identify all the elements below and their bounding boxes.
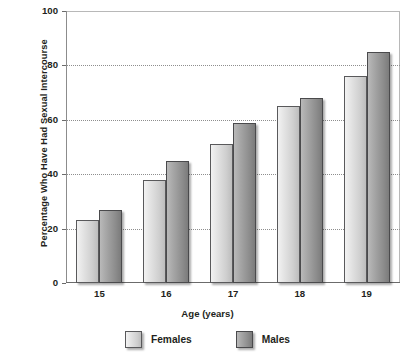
y-tick-label: 0 — [18, 277, 58, 288]
legend-label: Females — [151, 334, 192, 345]
y-tick-label: 100 — [18, 5, 58, 16]
y-tick-label: 80 — [18, 59, 58, 70]
y-tick-label: 40 — [18, 168, 58, 179]
legend-entry-females: Females — [125, 331, 192, 348]
gridline — [66, 65, 400, 66]
bar-females-19 — [344, 76, 367, 283]
bar-males-16 — [166, 161, 189, 283]
y-tick-label: 60 — [18, 114, 58, 125]
bar-males-19 — [367, 52, 390, 283]
bar-chart: Percentage Who Have Had Sexual Intercour… — [0, 0, 415, 363]
bar-males-17 — [233, 123, 256, 283]
legend-entry-males: Males — [236, 331, 290, 348]
bar-males-18 — [300, 98, 323, 283]
males-swatch — [236, 331, 253, 348]
y-tick-mark — [62, 283, 66, 284]
y-axis-line — [66, 11, 67, 283]
x-axis-title: Age (years) — [0, 308, 415, 319]
chart-legend: FemalesMales — [0, 331, 415, 348]
plot-border-top — [66, 11, 400, 12]
x-tick-label-16: 16 — [136, 288, 196, 299]
plot-area — [66, 11, 400, 283]
plot-border-right — [399, 11, 400, 283]
x-tick-label-18: 18 — [270, 288, 330, 299]
legend-label: Males — [262, 334, 290, 345]
bar-females-18 — [277, 106, 300, 283]
x-tick-label-15: 15 — [69, 288, 129, 299]
bar-females-16 — [143, 180, 166, 283]
x-tick-label-17: 17 — [203, 288, 263, 299]
females-swatch — [125, 331, 142, 348]
bar-males-15 — [99, 210, 122, 283]
bar-females-15 — [76, 220, 99, 283]
bar-females-17 — [210, 144, 233, 283]
y-axis-title: Percentage Who Have Had Sexual Intercour… — [39, 3, 49, 283]
x-tick-label-19: 19 — [337, 288, 397, 299]
y-tick-label: 20 — [18, 223, 58, 234]
